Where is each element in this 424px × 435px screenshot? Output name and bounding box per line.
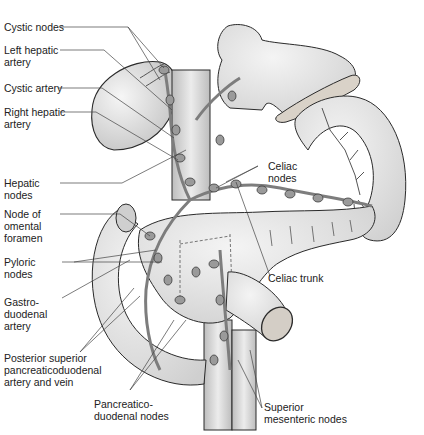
label-cystic-artery: Cystic artery xyxy=(4,82,62,94)
label-pyloric-nodes: Pyloric nodes xyxy=(4,256,36,280)
label-pancreaticoduodenal-nodes: Pancreatico- duodenal nodes xyxy=(94,398,169,422)
label-superior-mesenteric-nodes: Superior mesenteric nodes xyxy=(264,401,347,425)
label-hepatic-nodes: Hepatic nodes xyxy=(4,177,40,201)
label-celiac-nodes: Celiac nodes xyxy=(268,160,297,184)
gallbladder xyxy=(92,62,177,150)
label-cystic-nodes: Cystic nodes xyxy=(4,21,64,33)
label-posterior-superior-pancreaticoduodenal: Posterior superior pancreaticoduodenal a… xyxy=(4,352,102,388)
anatomy-figure: Cystic nodes Left hepatic artery Cystic … xyxy=(0,0,424,435)
label-celiac-trunk: Celiac trunk xyxy=(268,272,323,284)
label-left-hepatic-artery: Left hepatic artery xyxy=(4,44,58,68)
label-right-hepatic-artery: Right hepatic artery xyxy=(4,106,65,130)
label-node-of-omental-foramen: Node of omental foramen xyxy=(4,208,43,244)
label-gastroduodenal-artery: Gastro- duodenal artery xyxy=(4,296,47,332)
